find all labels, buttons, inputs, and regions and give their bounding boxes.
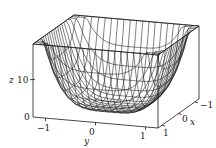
y-tick-neg1: −1 xyxy=(37,123,50,133)
y-tick-0: 0 xyxy=(89,127,95,137)
x-tick-1: 1 xyxy=(163,128,169,138)
z-axis-label: z xyxy=(8,75,14,85)
y-axis-label: y xyxy=(83,136,90,146)
z-tick-10: 10 xyxy=(17,75,29,85)
axis-ticks xyxy=(30,80,198,130)
wireframe-mesh xyxy=(33,15,199,113)
surface-plot: z 10 0 −1 0 1 y 1 0 x −1 xyxy=(0,0,216,148)
z-tick-0: 0 xyxy=(24,112,30,122)
x-tick-0: 0 xyxy=(182,114,188,124)
y-tick-1: 1 xyxy=(140,131,146,141)
x-tick-neg1: −1 xyxy=(200,100,213,110)
x-axis-label: x xyxy=(190,117,195,127)
